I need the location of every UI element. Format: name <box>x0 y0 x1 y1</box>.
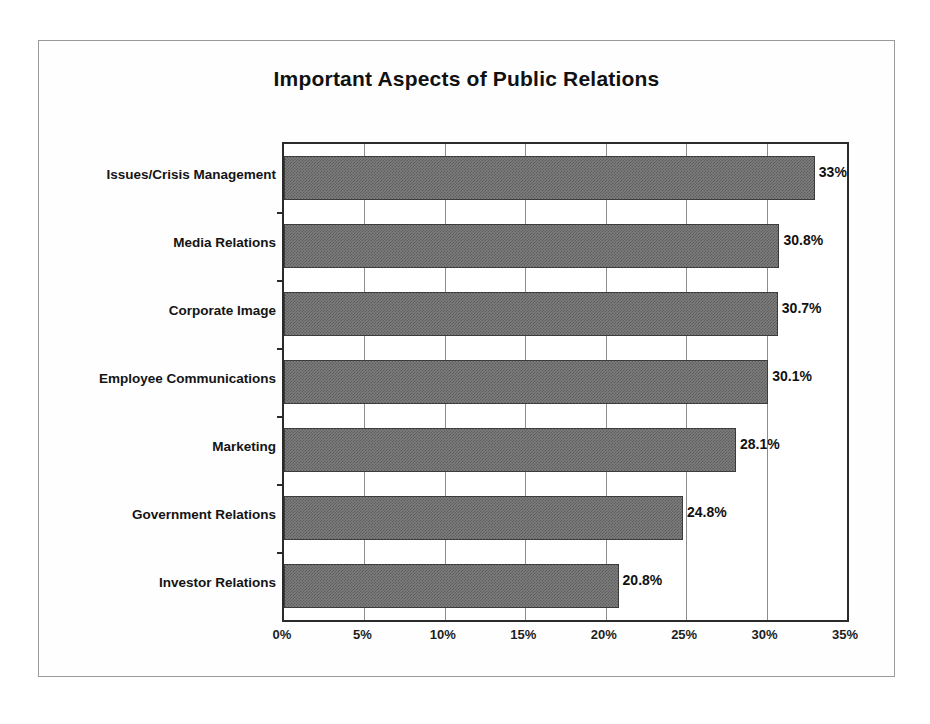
x-axis-tick-labels: 0%5%10%15%20%25%30%35% <box>282 627 849 653</box>
bar[interactable] <box>284 360 768 404</box>
x-tick-label: 0% <box>273 627 292 642</box>
y-axis-tick <box>277 484 284 486</box>
bar-value-label: 33% <box>815 164 847 180</box>
y-axis-category-labels: Issues/Crisis ManagementMedia RelationsC… <box>44 142 276 622</box>
category-label: Government Relations <box>46 507 276 522</box>
x-tick-label: 15% <box>510 627 536 642</box>
x-tick-label: 25% <box>671 627 697 642</box>
bar-group: 24.8% <box>284 484 847 552</box>
category-label: Investor Relations <box>46 575 276 590</box>
bar[interactable] <box>284 428 736 472</box>
bar[interactable] <box>284 224 779 268</box>
chart-title: Important Aspects of Public Relations <box>39 67 894 91</box>
category-label: Corporate Image <box>46 303 276 318</box>
chart-page-frame: Important Aspects of Public Relations Is… <box>38 40 895 677</box>
bar-value-label: 28.1% <box>736 436 780 452</box>
y-axis-tick <box>277 280 284 282</box>
bar-group: 30.7% <box>284 280 847 348</box>
bar-group: 33% <box>284 144 847 212</box>
bar-value-label: 20.8% <box>619 572 663 588</box>
bar[interactable] <box>284 156 815 200</box>
plot-area: 33%30.8%30.7%30.1%28.1%24.8%20.8% <box>282 142 849 622</box>
category-label: Issues/Crisis Management <box>46 167 276 182</box>
x-tick-label: 35% <box>832 627 858 642</box>
bar[interactable] <box>284 496 683 540</box>
x-tick-label: 20% <box>591 627 617 642</box>
y-axis-tick <box>277 416 284 418</box>
category-label: Employee Communications <box>46 371 276 386</box>
category-label: Media Relations <box>46 235 276 250</box>
x-tick-label: 30% <box>752 627 778 642</box>
bar-value-label: 30.8% <box>779 232 823 248</box>
bar-group: 28.1% <box>284 416 847 484</box>
bar-value-label: 30.7% <box>778 300 822 316</box>
bar-group: 30.1% <box>284 348 847 416</box>
y-axis-tick <box>277 552 284 554</box>
bar-group: 20.8% <box>284 552 847 620</box>
x-tick-label: 5% <box>353 627 372 642</box>
bar-value-label: 30.1% <box>768 368 812 384</box>
bar[interactable] <box>284 292 778 336</box>
bar-value-label: 24.8% <box>683 504 727 520</box>
category-label: Marketing <box>46 439 276 454</box>
bar[interactable] <box>284 564 619 608</box>
y-axis-tick <box>277 212 284 214</box>
x-tick-label: 10% <box>430 627 456 642</box>
y-axis-tick <box>277 348 284 350</box>
bar-group: 30.8% <box>284 212 847 280</box>
